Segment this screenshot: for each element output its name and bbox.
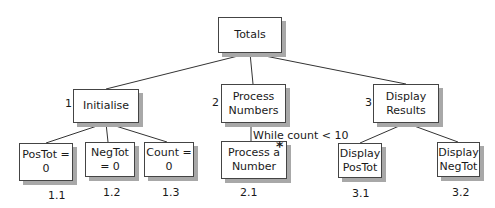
node-label: Initialise [83, 99, 129, 113]
node-number: 2 [212, 96, 219, 109]
node-number: 2.1 [240, 186, 258, 199]
node-initialise: Initialise [73, 89, 139, 123]
iteration-marker: * [276, 138, 283, 154]
node-label: Process Numbers [229, 90, 279, 118]
node-display-negtot: Display NegTot [437, 142, 480, 177]
node-totals: Totals [218, 17, 282, 53]
node-process-numbers: Process Numbers [221, 84, 286, 123]
node-display-postot: Display PosTot [338, 143, 382, 178]
node-label: PosTot = 0 [20, 148, 72, 176]
node-label: Display NegTot [438, 146, 479, 174]
node-number: 1 [65, 97, 72, 110]
node-number: 3.1 [352, 187, 370, 200]
node-number: 1.1 [48, 189, 66, 202]
node-display-results: Display Results [373, 84, 439, 123]
node-label: Display PosTot [339, 147, 381, 175]
node-number: 3 [365, 96, 372, 109]
node-number: 1.3 [162, 186, 180, 199]
node-number: 1.2 [103, 186, 121, 199]
node-count-0: Count = 0 [144, 142, 194, 177]
node-label: Count = 0 [145, 146, 193, 174]
node-label: Process a Number [228, 146, 280, 174]
node-negtot-0: NegTot = 0 [85, 142, 135, 177]
node-postot-0: PosTot = 0 [19, 143, 73, 181]
node-label: Totals [234, 28, 265, 42]
node-label: NegTot = 0 [86, 146, 134, 174]
node-number: 3.2 [452, 186, 470, 199]
node-label: Display Results [384, 90, 429, 118]
